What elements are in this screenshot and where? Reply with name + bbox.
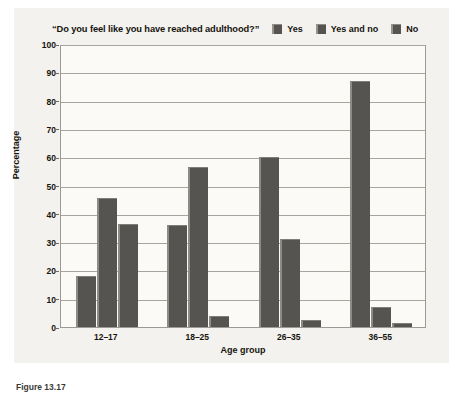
bar[interactable]: [188, 167, 208, 327]
y-tick-mark: [55, 101, 59, 102]
bar-group: [259, 46, 321, 327]
x-axis-title: Age group: [60, 345, 426, 355]
y-tick-label: 60: [30, 153, 56, 163]
y-tick-mark: [55, 299, 59, 300]
y-tick-label: 80: [30, 97, 56, 107]
bar-group: [76, 46, 138, 327]
bar[interactable]: [209, 316, 229, 327]
legend-swatch-icon: [272, 24, 282, 34]
bar[interactable]: [392, 323, 412, 327]
y-tick-mark: [55, 158, 59, 159]
y-tick-mark: [55, 328, 59, 329]
y-tick-label: 40: [30, 210, 56, 220]
y-tick-mark: [55, 271, 59, 272]
bar[interactable]: [118, 224, 138, 327]
x-tick-label: 12–17: [94, 332, 118, 342]
chart-legend-row: “Do you feel like you have reached adult…: [52, 20, 442, 38]
bar[interactable]: [97, 198, 117, 327]
x-tick-label: 26–35: [277, 332, 301, 342]
x-tick-label: 36–55: [368, 332, 392, 342]
legend-swatch-icon: [316, 24, 326, 34]
bar[interactable]: [259, 157, 279, 327]
chart-title: “Do you feel like you have reached adult…: [52, 24, 259, 34]
plot-area: [60, 45, 426, 328]
y-tick-mark: [55, 73, 59, 74]
bar-group: [350, 46, 412, 327]
legend-label: Yes: [287, 24, 303, 34]
figure-caption: Figure 13.17: [16, 382, 66, 394]
y-tick-mark: [55, 243, 59, 244]
y-tick-label: 90: [30, 68, 56, 78]
legend-entry-no[interactable]: No: [391, 24, 418, 34]
legend-label: Yes and no: [331, 24, 379, 34]
y-tick-mark: [55, 186, 59, 187]
y-tick-label: 100: [30, 40, 56, 50]
bar[interactable]: [167, 225, 187, 327]
bar[interactable]: [301, 320, 321, 327]
bar[interactable]: [76, 276, 96, 327]
legend-label: No: [406, 24, 418, 34]
bar[interactable]: [371, 307, 391, 327]
y-tick-mark: [55, 45, 59, 46]
bar[interactable]: [350, 81, 370, 327]
y-tick-mark: [55, 129, 59, 130]
y-tick-mark: [55, 214, 59, 215]
y-axis: 0102030405060708090100: [26, 45, 56, 328]
y-tick-label: 50: [30, 182, 56, 192]
legend-entry-yes-and-no[interactable]: Yes and no: [316, 24, 379, 34]
x-axis: 12–1718–2526–3536–55: [60, 332, 426, 346]
y-tick-label: 0: [30, 323, 56, 333]
bar[interactable]: [280, 239, 300, 327]
figure-container: “Do you feel like you have reached adult…: [0, 0, 449, 394]
x-tick-label: 18–25: [185, 332, 209, 342]
y-tick-label: 70: [30, 125, 56, 135]
legend-swatch-icon: [391, 24, 401, 34]
y-axis-title: Percentage: [11, 105, 21, 205]
y-tick-label: 10: [30, 295, 56, 305]
y-tick-label: 30: [30, 238, 56, 248]
legend-entry-yes[interactable]: Yes: [272, 24, 303, 34]
bar-group: [167, 46, 229, 327]
y-tick-label: 20: [30, 266, 56, 276]
